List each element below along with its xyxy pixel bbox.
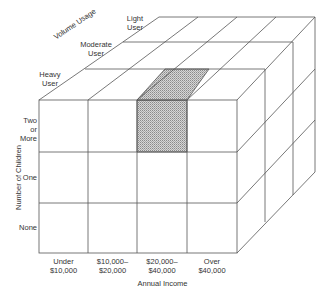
y-label-none: None	[14, 223, 37, 232]
x-label-text: Under	[39, 257, 88, 266]
x-label-text: $10,000–	[88, 257, 137, 266]
y-label-text: Two	[18, 116, 37, 125]
z-label-text: User	[38, 79, 62, 88]
y-label-text: One	[18, 173, 37, 182]
x-label-text: $40,000	[187, 266, 237, 275]
z-label-heavy-user: Heavy User	[38, 70, 62, 88]
y-label-text: None	[14, 223, 37, 232]
x-label-text: $40,000	[137, 266, 187, 275]
x-label-20000-40000: $20,000– $40,000	[137, 257, 187, 275]
y-label-text: More	[18, 134, 37, 143]
x-label-under-10000: Under $10,000	[39, 257, 88, 275]
y-label-one: One	[18, 173, 37, 182]
x-label-text: $20,000–	[137, 257, 187, 266]
x-label-text: Over	[187, 257, 237, 266]
z-label-text: Heavy	[38, 70, 62, 79]
x-label-text: $10,000	[39, 266, 88, 275]
z-label-light-user: Light User	[120, 14, 150, 32]
z-label-text: User	[76, 49, 116, 58]
y-label-text: or	[18, 125, 37, 134]
z-label-text: User	[120, 23, 150, 32]
z-label-text: Light	[120, 14, 150, 23]
axis-title-annual-income: Annual Income	[88, 279, 237, 288]
y-label-two-or-more: Two or More	[18, 116, 37, 143]
x-label-over-40000: Over $40,000	[187, 257, 237, 275]
z-label-text: Moderate	[76, 40, 116, 49]
x-label-10000-20000: $10,000– $20,000	[88, 257, 137, 275]
highlighted-cell-top	[137, 69, 209, 100]
x-label-text: $20,000	[88, 266, 137, 275]
segmentation-cube	[0, 0, 331, 292]
z-label-moderate-user: Moderate User	[76, 40, 116, 58]
highlighted-cell-front	[137, 100, 187, 152]
